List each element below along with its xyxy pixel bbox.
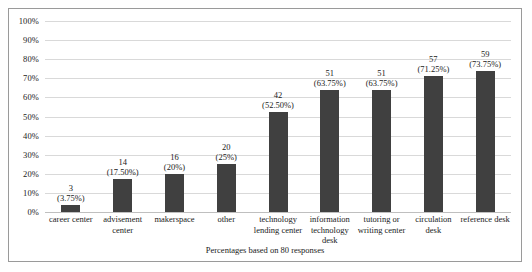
bar-slot: 3(3.75%) [45,21,97,212]
x-axis-label: advisement center [97,214,149,246]
x-axis-label: reference desk [459,214,511,246]
bar-value-count: 59 [459,49,511,59]
bar-slot: 16(20%) [149,21,201,212]
x-axis-label: circulation desk [407,214,459,246]
bar-slot: 20(25%) [200,21,252,212]
bar [476,71,495,212]
bar-value-label: 16(20%) [149,152,201,172]
chart-figure: 100%90%80%70%60%50%40%30%20%10%0% 3(3.75… [8,8,522,262]
x-axis-category-labels: career centeradvisement centermakerspace… [45,214,511,246]
bar-value-label: 51(63.75%) [356,68,408,88]
bar-value-label: 14(17.50%) [97,157,149,177]
bar [217,164,236,212]
bar [424,76,443,212]
gridline-0pct [45,212,511,213]
bar-value-label: 59(73.75%) [459,49,511,69]
y-axis-tick-label: 10% [23,188,39,198]
bar-value-percent: (25%) [200,152,252,162]
bar-value-label: 57(71.25%) [407,54,459,74]
bar-value-count: 51 [304,68,356,78]
bar-value-label: 3(3.75%) [45,183,97,203]
bar-value-percent: (3.75%) [45,193,97,203]
bar-value-count: 3 [45,183,97,193]
bar-value-percent: (71.25%) [407,64,459,74]
y-axis-tick-label: 90% [23,35,39,45]
x-axis-label: career center [45,214,97,246]
bar-value-label: 42(52.50%) [252,90,304,110]
x-axis-label: other [200,214,252,246]
bar-value-count: 20 [200,142,252,152]
bar-slot: 51(63.75%) [304,21,356,212]
y-axis-tick-label: 0% [27,207,39,217]
bar [61,205,80,212]
bar-value-label: 51(63.75%) [304,68,356,88]
x-axis-label: makerspace [149,214,201,246]
bar [165,174,184,212]
y-axis-tick-label: 40% [23,131,39,141]
y-axis-tick-label: 30% [23,150,39,160]
x-axis-label: technology lending center [252,214,304,246]
bar-value-percent: (73.75%) [459,59,511,69]
bar-value-count: 57 [407,54,459,64]
bar-slot: 14(17.50%) [97,21,149,212]
bar-value-percent: (63.75%) [304,78,356,88]
y-axis-tick-label: 70% [23,73,39,83]
y-axis-tick-label: 100% [19,16,39,26]
bar-slot: 57(71.25%) [407,21,459,212]
bar-value-count: 14 [97,157,149,167]
bar [320,90,339,212]
y-axis-tick-label: 50% [23,112,39,122]
bar-series: 3(3.75%)14(17.50%)16(20%)20(25%)42(52.50… [45,21,511,212]
bar-value-count: 42 [252,90,304,100]
bar-slot: 59(73.75%) [459,21,511,212]
chart-caption: Percentages based on 80 responses [9,245,521,255]
bar [372,90,391,212]
bar-slot: 51(63.75%) [356,21,408,212]
bar-value-label: 20(25%) [200,142,252,162]
bar [269,112,288,212]
bar-slot: 42(52.50%) [252,21,304,212]
x-axis-label: tutoring or writing center [356,214,408,246]
bar-value-percent: (52.50%) [252,100,304,110]
bar-value-count: 16 [149,152,201,162]
x-axis-label: information technology desk [304,214,356,246]
bar-value-count: 51 [356,68,408,78]
y-axis-tick-label: 60% [23,92,39,102]
bar-value-percent: (63.75%) [356,78,408,88]
bar [113,179,132,212]
y-axis-tick-label: 20% [23,169,39,179]
bar-value-percent: (20%) [149,162,201,172]
plot-area: 100%90%80%70%60%50%40%30%20%10%0% 3(3.75… [45,21,511,212]
bar-value-percent: (17.50%) [97,167,149,177]
y-axis-tick-label: 80% [23,54,39,64]
